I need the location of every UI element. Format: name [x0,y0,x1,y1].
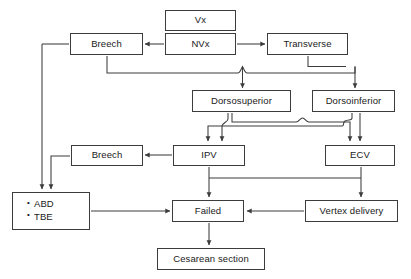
node-breech-lower-label: Breech [92,150,123,161]
node-failed-label: Failed [195,206,221,217]
node-vx[interactable]: Vx [165,10,236,31]
node-abd-tbe[interactable]: ABD TBE [12,192,90,230]
node-nvx[interactable]: NVx [165,33,236,55]
node-ecv-label: ECV [350,150,370,161]
node-abd-tbe-item: TBE [27,211,89,224]
edge-transverse-stem [308,56,346,67]
node-abd-tbe-item: ABD [27,198,89,211]
node-dorsoinferior-label: Dorsoinferior [326,96,382,107]
edge-breech2-to-abdtbe [51,156,70,189]
node-ipv[interactable]: IPV [173,145,245,166]
node-nvx-label: NVx [191,39,209,50]
node-cesarean-section[interactable]: Cesarean section [157,248,265,270]
node-ecv[interactable]: ECV [325,145,395,166]
node-breech-upper[interactable]: Breech [70,33,143,55]
edge-dorsosup-to-ipv [222,113,228,141]
node-ipv-label: IPV [201,150,217,161]
flowchart-canvas: Vx NVx Breech Transverse Dorsosuperior D… [0,0,411,279]
node-transverse-label: Transverse [283,39,331,50]
node-dorsosuperior[interactable]: Dorsosuperior [192,90,291,112]
edge-breech1-to-dorsosup [107,56,346,73]
edge-transverse-right-run [346,67,355,74]
node-vx-label: Vx [195,15,206,26]
node-breech-upper-label: Breech [91,39,122,50]
node-vertex-delivery[interactable]: Vertex delivery [305,200,398,222]
node-transverse[interactable]: Transverse [267,33,348,55]
node-failed[interactable]: Failed [172,200,244,222]
node-breech-lower[interactable]: Breech [71,145,143,166]
node-dorsosuperior-label: Dorsosuperior [211,96,272,107]
node-vertex-delivery-label: Vertex delivery [320,206,384,217]
edge-dorsosup-to-ecv [232,113,350,141]
node-cesarean-section-label: Cesarean section [173,254,249,265]
node-dorsoinferior[interactable]: Dorsoinferior [312,90,395,112]
edge-dorsoinf-to-ipv [208,113,352,141]
